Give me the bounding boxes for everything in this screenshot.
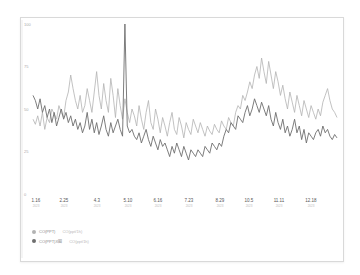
x-tick-sublabel: 2023 bbox=[125, 204, 132, 208]
legend-sublabel: CO(ppt/1h) bbox=[69, 239, 89, 244]
y-tick-label: 50 bbox=[24, 107, 29, 112]
legend-item-co-ppt[interactable]: CO(PPT) CO(ppt/1h) bbox=[32, 229, 82, 234]
y-tick-label: 0 bbox=[24, 192, 27, 197]
x-tick-label: 1.16 bbox=[32, 198, 41, 203]
x-tick-label: 2.25 bbox=[60, 198, 69, 203]
chart-lines bbox=[33, 24, 337, 160]
x-tick-sublabel: 2023 bbox=[276, 204, 283, 208]
x-tick-sublabel: 2023 bbox=[308, 204, 315, 208]
legend-item-co-ppt-x[interactable]: CO(PPT)X圈 CO(ppt/1h) bbox=[32, 238, 89, 244]
x-tick-sublabel: 2023 bbox=[155, 204, 162, 208]
legend-dot-icon bbox=[32, 230, 36, 234]
legend-dot-icon bbox=[32, 239, 36, 243]
y-tick-label: 25 bbox=[24, 149, 29, 154]
x-tick-label: 8.29 bbox=[216, 198, 225, 203]
x-tick-sublabel: 2023 bbox=[94, 204, 101, 208]
x-tick-label: 5.10 bbox=[124, 198, 133, 203]
x-tick-label: 7.23 bbox=[185, 198, 194, 203]
series-line-1[interactable] bbox=[33, 24, 337, 160]
legend-sublabel: CO(ppt/1h) bbox=[62, 229, 82, 234]
x-tick-label: 6.16 bbox=[154, 198, 163, 203]
x-tick-label: 4.3 bbox=[94, 198, 101, 203]
legend-label: CO(PPT)X圈 bbox=[39, 238, 62, 244]
y-tick-label: 75 bbox=[24, 64, 29, 69]
x-tick-sublabel: 2023 bbox=[217, 204, 224, 208]
x-tick-sublabel: 2023 bbox=[246, 204, 253, 208]
y-axis: 0255075100 bbox=[22, 20, 31, 258]
y-tick-label: 100 bbox=[24, 22, 31, 27]
x-tick-sublabel: 2023 bbox=[61, 204, 68, 208]
x-tick-sublabel: 2023 bbox=[186, 204, 193, 208]
legend-label: CO(PPT) bbox=[39, 229, 55, 234]
x-tick-sublabel: 2023 bbox=[33, 204, 40, 208]
x-axis: 1.1620232.2520234.320235.1020236.1620237… bbox=[32, 198, 318, 208]
x-tick-label: 11.11 bbox=[274, 198, 285, 203]
x-tick-label: 12.18 bbox=[305, 198, 317, 203]
x-tick-label: 10.5 bbox=[245, 198, 254, 203]
